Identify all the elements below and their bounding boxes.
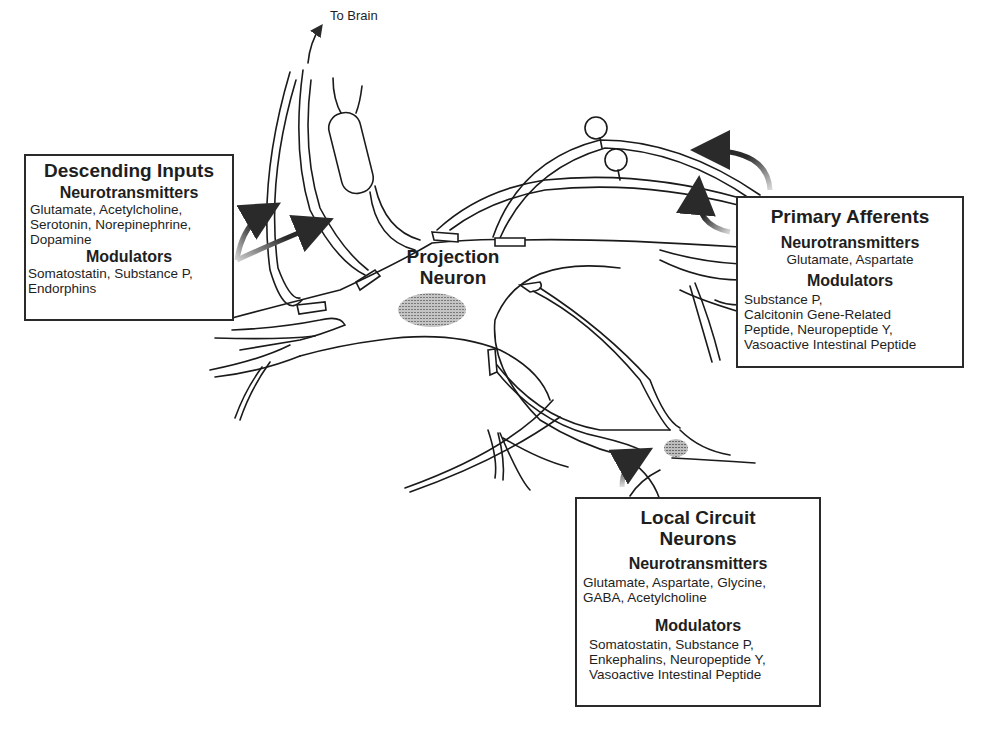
- projection-neuron-label: Projection Neuron: [398, 246, 508, 288]
- afferent-neurotransmitters-heading: Neurotransmitters: [738, 234, 962, 252]
- descending-neurotransmitters-list: Glutamate, Acetylcholine, Serotonin, Nor…: [26, 202, 232, 247]
- list-item: Glutamate, Aspartate: [738, 252, 962, 267]
- descending-inputs-title: Descending Inputs: [26, 160, 232, 181]
- descending-neurotransmitters-heading: Neurotransmitters: [26, 184, 232, 202]
- local-circuit-neurons-box: Local Circuit Neurons Neurotransmitters …: [575, 497, 821, 707]
- local-neuron-nucleus: [664, 439, 688, 457]
- local-neurotransmitters-heading: Neurotransmitters: [577, 555, 819, 573]
- projection-neuron-nucleus: [398, 293, 466, 327]
- primary-afferents-title: Primary Afferents: [738, 206, 962, 227]
- projection-neuron-line1: Projection: [398, 246, 508, 267]
- list-item: Vasoactive Intestinal Peptide: [589, 667, 819, 682]
- local-neurotransmitters-list: Glutamate, Aspartate, Glycine, GABA, Ace…: [577, 575, 819, 605]
- list-item: Peptide, Neuropeptide Y,: [744, 322, 962, 337]
- local-modulators-heading: Modulators: [577, 617, 819, 635]
- projection-neuron-line2: Neuron: [398, 267, 508, 288]
- neuron-illustration: [0, 0, 981, 737]
- list-item: Somatostatin, Substance P,: [28, 266, 232, 281]
- list-item: Somatostatin, Substance P,: [589, 637, 819, 652]
- afferent-modulators-list: Substance P, Calcitonin Gene-Related Pep…: [738, 292, 962, 352]
- local-circuit-arrow: [622, 455, 640, 487]
- to-brain-arrow: [308, 28, 320, 63]
- afferent-neurotransmitters-list: Glutamate, Aspartate: [738, 252, 962, 267]
- descending-modulators-heading: Modulators: [26, 248, 232, 266]
- list-item: Vasoactive Intestinal Peptide: [744, 337, 962, 352]
- local-circuit-title-line1: Local Circuit: [577, 507, 819, 528]
- list-item: Endorphins: [28, 281, 232, 296]
- local-modulators-list: Somatostatin, Substance P, Enkephalins, …: [577, 637, 819, 682]
- list-item: GABA, Acetylcholine: [583, 590, 819, 605]
- list-item: Enkephalins, Neuropeptide Y,: [589, 652, 819, 667]
- list-item: Substance P,: [744, 292, 962, 307]
- list-item: Dopamine: [30, 232, 232, 247]
- descending-inputs-box: Descending Inputs Neurotransmitters Glut…: [24, 154, 234, 321]
- local-circuit-title-line2: Neurons: [577, 528, 819, 549]
- primary-afferents-box: Primary Afferents Neurotransmitters Glut…: [736, 196, 964, 368]
- descending-modulators-list: Somatostatin, Substance P, Endorphins: [26, 266, 232, 296]
- list-item: Serotonin, Norepinephrine,: [30, 217, 232, 232]
- afferent-arrow-1: [705, 150, 770, 190]
- list-item: Glutamate, Aspartate, Glycine,: [583, 575, 819, 590]
- list-item: Glutamate, Acetylcholine,: [30, 202, 232, 217]
- to-brain-label: To Brain: [330, 8, 378, 23]
- afferent-modulators-heading: Modulators: [738, 272, 962, 290]
- list-item: Calcitonin Gene-Related: [744, 307, 962, 322]
